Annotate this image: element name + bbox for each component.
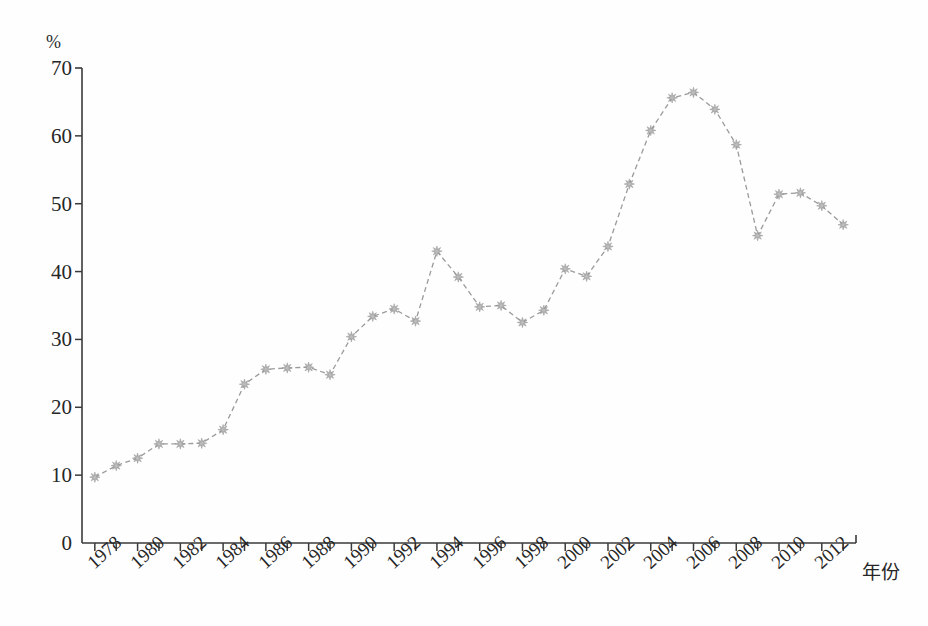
data-point-marker [132,453,142,463]
data-point-marker [838,220,848,230]
x-axis-title: 年份 [862,557,900,584]
y-axis-tick-label: 10 [40,463,72,488]
data-series-markers [90,87,849,482]
data-point-marker [90,472,100,482]
data-point-marker [175,439,185,449]
data-point-marker [218,424,228,434]
data-point-marker [646,125,656,135]
data-point-marker [496,300,506,310]
y-axis-tick-label: 30 [40,327,72,352]
data-point-marker [710,104,720,114]
data-point-marker [560,264,570,274]
data-point-marker [624,179,634,189]
axis-lines [75,68,856,543]
data-point-marker [303,362,313,372]
data-point-marker [795,188,805,198]
data-point-marker [453,272,463,282]
chart-figure: % 010203040506070 1978198019821984198619… [0,0,928,626]
data-point-marker [282,363,292,373]
data-point-marker [731,139,741,149]
data-point-marker [432,246,442,256]
data-point-marker [539,305,549,315]
data-point-marker [261,364,271,374]
data-point-marker [752,230,762,240]
data-point-marker [517,317,527,327]
y-axis-tick-label: 70 [40,56,72,81]
data-point-marker [581,271,591,281]
data-point-marker [603,241,613,251]
y-axis-tick-label: 50 [40,191,72,216]
data-point-marker [474,302,484,312]
line-chart-plot [0,0,928,626]
data-point-marker [817,201,827,211]
data-point-marker [389,304,399,314]
y-axis-tick-label: 60 [40,123,72,148]
data-point-marker [154,439,164,449]
data-point-marker [325,370,335,380]
data-point-marker [410,316,420,326]
y-axis-tick-label: 0 [40,531,72,556]
data-series-line [95,92,843,477]
data-point-marker [667,93,677,103]
data-point-marker [239,379,249,389]
data-point-marker [688,87,698,97]
data-point-marker [111,460,121,470]
y-axis-tick-label: 40 [40,259,72,284]
y-axis-tick-label: 20 [40,395,72,420]
data-point-marker [774,189,784,199]
data-point-marker [197,438,207,448]
y-axis-ticks [75,136,82,475]
data-point-marker [368,311,378,321]
data-point-marker [346,332,356,342]
